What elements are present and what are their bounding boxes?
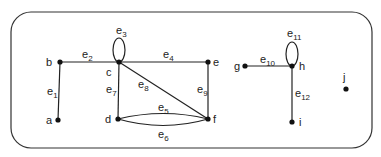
edge-e6 [118, 119, 208, 126]
vertex-label: a [46, 114, 53, 126]
edge-label: e12 [295, 87, 311, 102]
vertex-label: g [234, 60, 240, 72]
edge-e1 [58, 62, 60, 120]
edge-label: e4 [163, 48, 174, 63]
vertex-label: i [299, 116, 301, 128]
vertex-label: d [105, 113, 111, 125]
edges [58, 38, 298, 126]
vertex-label: c [106, 66, 112, 78]
edge-e5 [118, 114, 208, 120]
vertex-label: b [46, 56, 52, 68]
vertex-j [343, 86, 348, 91]
vertex-f [205, 116, 210, 121]
vertex-h [289, 63, 294, 68]
edge-e7 [118, 62, 119, 119]
edge-e11-loop [286, 42, 298, 66]
vertex-b [57, 59, 62, 64]
vertex-e [205, 59, 210, 64]
vertex-c [116, 59, 121, 64]
vertex-a [55, 117, 60, 122]
edge-label: e2 [82, 48, 93, 63]
graph-diagram: abcdefghij e1e2e3e4e5e6e7e8e9e10e11e12 [0, 0, 381, 157]
vertex-g [242, 63, 247, 68]
graph-boundary [11, 12, 372, 148]
edge-label: e7 [106, 83, 117, 98]
edge-label: e9 [197, 83, 208, 98]
edge-label: e11 [287, 27, 302, 42]
vertex-i [289, 119, 294, 124]
edge-label: e1 [47, 85, 58, 100]
vertex-label: h [299, 60, 305, 72]
vertex-d [115, 116, 120, 121]
vertex-label: e [213, 56, 219, 68]
vertex-label: j [342, 71, 345, 83]
vertex-label: f [213, 113, 217, 125]
edge-label: e6 [158, 128, 169, 143]
edge-e3-loop [113, 38, 125, 62]
edge-label: e3 [116, 24, 127, 39]
